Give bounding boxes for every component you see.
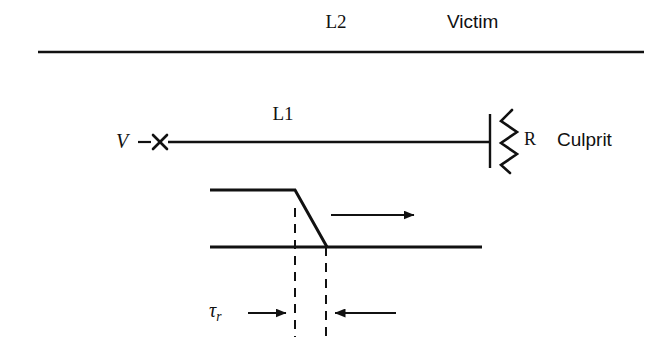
victim-line-label: L2 bbox=[325, 12, 346, 31]
source-x-marker bbox=[153, 135, 167, 149]
zigzag-resistor-symbol bbox=[501, 110, 517, 173]
source-voltage-label: V bbox=[116, 131, 128, 151]
rise-time-label: τr bbox=[209, 300, 221, 323]
victim-role-label: Victim bbox=[447, 12, 498, 31]
resistor-label: R bbox=[524, 130, 536, 148]
tau-subscript: r bbox=[216, 309, 221, 324]
crosstalk-diagram-canvas bbox=[0, 0, 672, 353]
culprit-line-label: L1 bbox=[272, 104, 293, 123]
culprit-role-label: Culprit bbox=[557, 130, 612, 149]
signal-waveform-falling-edge bbox=[210, 190, 327, 247]
